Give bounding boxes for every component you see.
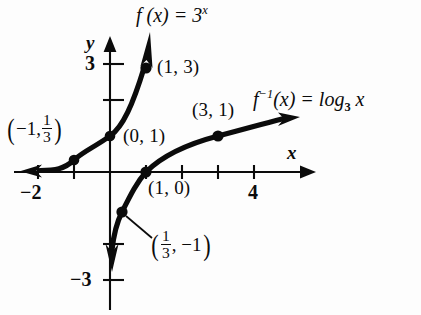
fraction-denominator: 3 xyxy=(161,244,171,261)
x-axis-label: x xyxy=(287,143,297,162)
fraction-numerator: 1 xyxy=(42,112,52,128)
log-label-rest: (x) = log xyxy=(273,88,344,110)
exponential-function-label: f (x) = 3x xyxy=(136,4,208,25)
close-paren: ) xyxy=(203,233,210,256)
open-paren: ( xyxy=(7,117,14,140)
exponential-label-exponent: x xyxy=(202,3,208,17)
point-label-3-1: (3, 1) xyxy=(192,100,234,119)
fraction-denominator: 3 xyxy=(42,128,52,145)
y-tick-label-3: 3 xyxy=(85,53,95,73)
fraction-one-third: 13 xyxy=(161,228,171,261)
point-label-1-0: (1, 0) xyxy=(148,178,190,197)
log-label-exponent: −1 xyxy=(259,87,274,101)
dot-0-1 xyxy=(105,131,116,142)
point-label-onethird-neg1: (13, −1) xyxy=(150,228,212,261)
axis-lines xyxy=(14,36,316,310)
open-paren: ( xyxy=(151,233,158,256)
dot-1-3 xyxy=(140,62,151,73)
exponential-label-text: f (x) = 3 xyxy=(136,4,202,26)
fraction-numerator: 1 xyxy=(161,228,171,244)
dot-1-0 xyxy=(140,166,151,177)
y-axis-arrowhead xyxy=(104,36,117,52)
graph-canvas xyxy=(0,0,421,315)
y-tick-label-neg3: −3 xyxy=(70,269,91,289)
math-figure: f (x) = 3x f−1(x) = log3 x y x 3 −3 −2 4… xyxy=(0,0,421,315)
logarithm-function-label: f−1(x) = log3 x xyxy=(253,88,364,113)
point-label-neg1-onethird: (−1, 13) xyxy=(6,112,63,145)
dot-onethird-neg1 xyxy=(116,206,127,217)
y-axis-label: y xyxy=(86,33,94,52)
point-label-0-1: (0, 1) xyxy=(123,126,165,145)
dot-neg1-onethird xyxy=(69,155,80,166)
neg1-text: , −1 xyxy=(172,235,202,254)
point-label-1-3: (1, 3) xyxy=(157,57,199,76)
x-tick-label-4: 4 xyxy=(248,182,258,202)
leader-line-onethird-neg1 xyxy=(126,216,152,238)
dot-3-1 xyxy=(212,130,223,141)
x-axis-arrowhead xyxy=(300,166,316,179)
log-label-tail: x xyxy=(356,88,365,110)
x-tick-label-neg2: −2 xyxy=(20,182,41,202)
fraction-one-third: 13 xyxy=(42,112,52,145)
neg1-text: −1, xyxy=(16,119,41,138)
close-paren: ) xyxy=(54,117,61,140)
